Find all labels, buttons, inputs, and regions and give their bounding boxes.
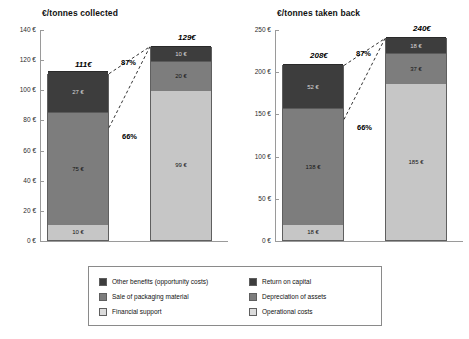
bar-segment[interactable]: 99 € bbox=[151, 91, 211, 240]
y-axis-tick bbox=[275, 157, 279, 158]
legend-swatch-icon bbox=[249, 308, 257, 316]
bar-segment[interactable]: 185 € bbox=[386, 84, 446, 240]
y-axis-tick bbox=[275, 199, 279, 200]
legend-item[interactable]: Financial support bbox=[99, 304, 208, 319]
y-axis-tick bbox=[275, 114, 279, 115]
percent-annotation-bottom: 66% bbox=[122, 132, 137, 141]
legend-item[interactable]: Operational costs bbox=[249, 304, 326, 319]
legend-label: Depreciation of assets bbox=[262, 293, 326, 300]
y-axis-tick bbox=[40, 241, 44, 242]
y-axis-tick bbox=[40, 90, 44, 91]
stacked-bar[interactable]: 10 €75 €27 € bbox=[47, 74, 109, 241]
y-axis-tick bbox=[40, 181, 44, 182]
bar-segment[interactable]: 10 € bbox=[48, 225, 108, 240]
chart-title-collected: €/tonnes collected bbox=[42, 8, 118, 18]
y-axis-tick-label: 140 € bbox=[2, 26, 36, 33]
legend-item[interactable]: Depreciation of assets bbox=[249, 289, 326, 304]
y-axis-line-right bbox=[275, 30, 276, 242]
bar-segment[interactable]: 18 € bbox=[386, 37, 446, 52]
bar-segment[interactable]: 10 € bbox=[151, 46, 211, 61]
legend-item[interactable]: Other benefits (opportunity costs) bbox=[99, 274, 208, 289]
y-axis-tick-label: 0 € bbox=[237, 237, 271, 244]
legend-label: Operational costs bbox=[262, 308, 313, 315]
bar-total-label: 111€ bbox=[75, 60, 92, 69]
legend-column-costs: Return on capitalDepreciation of assetsO… bbox=[249, 274, 326, 319]
bar-segment[interactable]: 27 € bbox=[48, 71, 108, 112]
legend-column-benefits: Other benefits (opportunity costs)Sale o… bbox=[99, 274, 208, 319]
legend-label: Sale of packaging material bbox=[112, 293, 189, 300]
y-axis-tick bbox=[275, 241, 279, 242]
x-axis-line-right bbox=[275, 241, 463, 242]
y-axis-tick-label: 0 € bbox=[2, 237, 36, 244]
y-axis-tick bbox=[40, 60, 44, 61]
chart-page: €/tonnes collected 140 €120 €100 €80 €60… bbox=[0, 0, 469, 339]
bar-segment[interactable]: 138 € bbox=[283, 108, 343, 224]
bar-segment[interactable]: 37 € bbox=[386, 53, 446, 84]
legend-swatch-icon bbox=[99, 278, 107, 286]
y-axis-tick bbox=[40, 30, 44, 31]
bar-total-label: 208€ bbox=[310, 51, 328, 60]
legend-label: Financial support bbox=[112, 308, 162, 315]
bar-segment[interactable]: 75 € bbox=[48, 112, 108, 225]
bar-segment[interactable]: 20 € bbox=[151, 61, 211, 91]
legend-swatch-icon bbox=[249, 293, 257, 301]
y-axis-tick-label: 200 € bbox=[237, 68, 271, 75]
percent-annotation-top: 87% bbox=[356, 49, 371, 58]
y-axis-tick bbox=[40, 120, 44, 121]
y-axis-tick-label: 60 € bbox=[2, 147, 36, 154]
y-axis-tick-label: 150 € bbox=[237, 110, 271, 117]
legend-label: Return on capital bbox=[262, 278, 311, 285]
y-axis-tick-label: 120 € bbox=[2, 56, 36, 63]
chart-title-taken-back: €/tonnes taken back bbox=[277, 8, 360, 18]
chart-panel-taken-back: €/tonnes taken back 250 €200 €150 €100 €… bbox=[235, 0, 469, 262]
y-axis-tick bbox=[275, 72, 279, 73]
x-axis-line-left bbox=[40, 241, 228, 242]
bar-segment[interactable]: 18 € bbox=[283, 225, 343, 240]
y-axis-tick bbox=[275, 30, 279, 31]
y-axis-tick-label: 80 € bbox=[2, 116, 36, 123]
stacked-bar[interactable]: 18 €138 €52 € bbox=[282, 65, 344, 241]
legend-label: Other benefits (opportunity costs) bbox=[112, 278, 208, 285]
bar-total-label: 240€ bbox=[413, 24, 431, 33]
y-axis-tick-label: 40 € bbox=[2, 177, 36, 184]
percent-annotation-bottom: 66% bbox=[357, 123, 372, 132]
y-axis-tick bbox=[40, 211, 44, 212]
legend: Other benefits (opportunity costs)Sale o… bbox=[88, 266, 382, 326]
y-axis-tick-label: 50 € bbox=[237, 195, 271, 202]
chart-panel-collected: €/tonnes collected 140 €120 €100 €80 €60… bbox=[0, 0, 234, 262]
percent-annotation-top: 87% bbox=[121, 58, 136, 67]
legend-item[interactable]: Return on capital bbox=[249, 274, 326, 289]
legend-item[interactable]: Sale of packaging material bbox=[99, 289, 208, 304]
stacked-bar[interactable]: 99 €20 €10 € bbox=[150, 47, 212, 241]
legend-swatch-icon bbox=[99, 308, 107, 316]
stacked-bar[interactable]: 185 €37 €18 € bbox=[385, 38, 447, 241]
y-axis-tick-label: 20 € bbox=[2, 207, 36, 214]
y-axis-tick bbox=[40, 151, 44, 152]
bar-segment[interactable]: 52 € bbox=[283, 64, 343, 108]
legend-swatch-icon bbox=[249, 278, 257, 286]
y-axis-tick-label: 100 € bbox=[237, 153, 271, 160]
y-axis-tick-label: 250 € bbox=[237, 26, 271, 33]
legend-swatch-icon bbox=[99, 293, 107, 301]
y-axis-tick-label: 100 € bbox=[2, 86, 36, 93]
bar-total-label: 129€ bbox=[178, 33, 196, 42]
